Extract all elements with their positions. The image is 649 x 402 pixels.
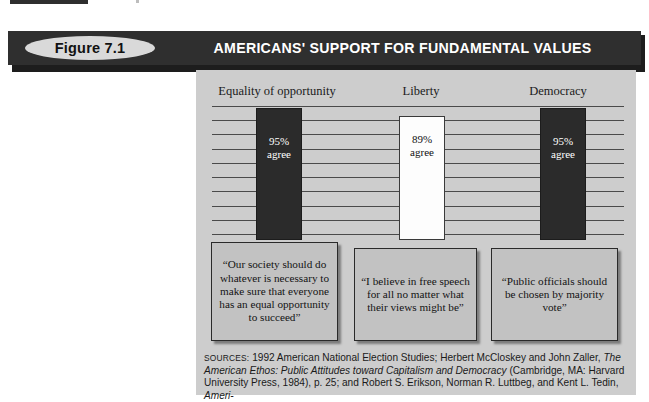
column-header-democracy: Democracy [488, 84, 628, 99]
page-edge-fragment [10, 0, 88, 4]
quote-text-equality: “Our society should do whatever is neces… [218, 258, 331, 324]
bar-democracy: 95% agree [540, 108, 586, 240]
bar-agree-democracy: agree [541, 148, 585, 161]
quote-box-democracy: “Public officials should be chosen by ma… [491, 248, 618, 341]
figure-title: AMERICANS' SUPPORT FOR FUNDAMENTAL VALUE… [175, 31, 630, 65]
bar-percent-equality: 95% [257, 135, 301, 148]
gridline [212, 106, 624, 107]
sources-part1: 1992 American National Election Studies;… [249, 352, 603, 363]
page-edge-speck [136, 0, 139, 3]
bar-agree-liberty: agree [400, 146, 444, 159]
column-header-liberty: Liberty [356, 84, 486, 99]
quote-text-democracy: “Public officials should be chosen by ma… [498, 275, 611, 315]
bar-value-label-equality: 95% agree [257, 135, 301, 161]
sources-label: SOURCES: [204, 353, 249, 363]
column-header-equality: Equality of opportunity [202, 84, 352, 99]
quote-box-equality: “Our society should do whatever is neces… [211, 242, 338, 341]
chart-panel: Equality of opportunity Liberty Democrac… [196, 70, 636, 395]
bar-agree-equality: agree [257, 148, 301, 161]
sources-note: SOURCES: 1992 American National Election… [204, 352, 632, 402]
figure-number-pill: Figure 7.1 [25, 36, 155, 60]
quote-box-liberty: “I believe in free speech for all no mat… [354, 248, 477, 341]
bar-value-label-liberty: 89% agree [400, 133, 444, 159]
bar-percent-democracy: 95% [541, 135, 585, 148]
bar-percent-liberty: 89% [400, 133, 444, 146]
sources-italic-title-2: Ameri- [204, 390, 234, 401]
quote-text-liberty: “I believe in free speech for all no mat… [361, 275, 470, 315]
figure-number-label: Figure 7.1 [55, 40, 126, 56]
bar-equality-of-opportunity: 95% agree [256, 108, 302, 240]
bar-value-label-democracy: 95% agree [541, 135, 585, 161]
banner-shadow-right [641, 35, 645, 69]
bar-liberty: 89% agree [399, 116, 445, 240]
